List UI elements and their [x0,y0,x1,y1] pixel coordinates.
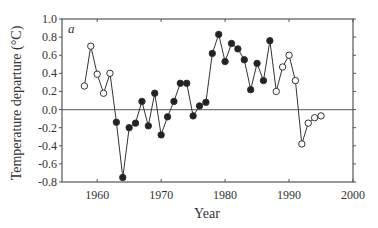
filled-marker [113,119,119,125]
panel-label: a [68,21,75,36]
filled-marker [203,99,209,105]
y-tick-label: 0.4 [42,66,57,80]
open-marker [292,77,298,83]
temperature-departure-chart: 19601970198019902000 1.00.80.60.40.20.0-… [0,0,378,228]
open-marker [273,88,279,94]
y-axis-title: Temperature departure (°C) [9,25,25,180]
open-marker [81,83,87,89]
filled-marker [132,120,138,126]
filled-marker [260,77,266,83]
y-tick-label: -0.4 [38,139,57,153]
filled-marker [190,113,196,119]
filled-marker [145,123,151,129]
filled-marker [235,46,241,52]
y-tick-label: 0.2 [42,84,57,98]
filled-marker [171,98,177,104]
y-tick-label: -0.6 [38,157,57,171]
filled-marker [164,114,170,120]
filled-marker [228,40,234,46]
open-marker [318,113,324,119]
open-marker [100,90,106,96]
open-marker [299,141,305,147]
open-marker [88,43,94,49]
filled-marker [184,80,190,86]
filled-marker [177,80,183,86]
data-markers [81,31,324,180]
x-tick-label: 1980 [213,188,237,202]
open-marker [311,115,317,121]
filled-marker [196,103,202,109]
filled-marker [241,57,247,63]
x-tick-label: 2000 [341,188,365,202]
open-marker [107,70,113,76]
x-axis-title: Year [194,206,220,221]
filled-marker [247,86,253,92]
y-tick-label: -0.8 [38,175,57,189]
open-marker [305,120,311,126]
y-axis: 1.00.80.60.40.20.0-0.2-0.4-0.6-0.8 [38,12,356,189]
filled-marker [254,60,260,66]
y-tick-label: 0.0 [42,103,57,117]
x-axis: 19601970198019902000 [85,19,365,202]
filled-marker [222,58,228,64]
x-tick-label: 1970 [149,188,173,202]
y-tick-label: 1.0 [42,12,57,26]
y-tick-label: -0.2 [38,121,57,135]
open-marker [286,52,292,58]
filled-marker [158,132,164,138]
filled-marker [215,31,221,37]
filled-marker [152,90,158,96]
filled-marker [120,174,126,180]
y-tick-label: 0.8 [42,30,57,44]
y-tick-label: 0.6 [42,48,57,62]
x-tick-label: 1990 [277,188,301,202]
filled-marker [209,50,215,56]
filled-marker [126,124,132,130]
filled-marker [139,98,145,104]
filled-marker [267,38,273,44]
x-tick-label: 1960 [85,188,109,202]
open-marker [279,64,285,70]
open-marker [94,71,100,77]
